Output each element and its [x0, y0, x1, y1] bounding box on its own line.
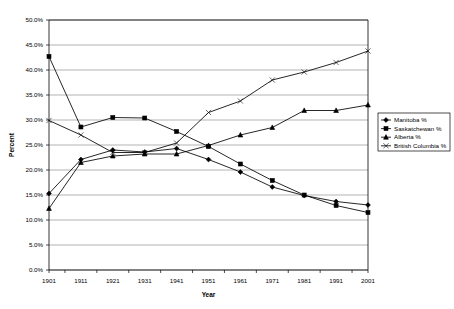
x-axis-title: Year — [202, 291, 216, 298]
x-tick-label: 1971 — [265, 277, 279, 284]
x-tick-label: 1931 — [138, 277, 152, 284]
series-marker-1 — [238, 162, 242, 166]
y-tick-label: 30.0% — [25, 116, 43, 123]
x-tick-label: 1911 — [74, 277, 88, 284]
y-tick-label: 45.0% — [25, 41, 43, 48]
y-axis-title: Percent — [8, 132, 15, 157]
x-tick-label: 1921 — [106, 277, 120, 284]
x-tick-label: 1901 — [42, 277, 56, 284]
series-marker-0 — [206, 157, 211, 162]
series-line-1 — [49, 57, 368, 213]
legend-label-3: British Columbia % — [394, 142, 447, 149]
legend-label-2: Alberta % — [394, 133, 421, 140]
series-marker-1 — [334, 204, 338, 208]
y-tick-label: 0.0% — [29, 266, 44, 273]
series-marker-0 — [270, 185, 275, 190]
x-tick-label: 1941 — [170, 277, 184, 284]
y-tick-label: 40.0% — [25, 66, 43, 73]
series-marker-2 — [366, 102, 371, 107]
series-marker-1 — [175, 130, 179, 134]
y-tick-label: 20.0% — [25, 166, 43, 173]
series-line-3 — [49, 51, 368, 153]
y-tick-label: 10.0% — [25, 216, 43, 223]
y-tick-label: 25.0% — [25, 141, 43, 148]
series-marker-1 — [302, 193, 306, 197]
legend-label-0: Manitoba % — [394, 116, 427, 123]
x-tick-label: 2001 — [361, 277, 375, 284]
series-marker-0 — [174, 146, 179, 151]
x-tick-label: 1951 — [202, 277, 216, 284]
series-marker-2 — [270, 125, 275, 130]
legend-label-1: Saskatchewan % — [394, 125, 442, 132]
x-tick-label: 1991 — [329, 277, 343, 284]
series-marker-0 — [366, 203, 371, 208]
series-marker-1 — [270, 179, 274, 183]
line-chart: 0.0%5.0%10.0%15.0%20.0%25.0%30.0%35.0%40… — [0, 0, 454, 309]
x-tick-label: 1981 — [297, 277, 311, 284]
series-marker-1 — [111, 116, 115, 120]
series-marker-0 — [334, 199, 339, 204]
chart-container: 0.0%5.0%10.0%15.0%20.0%25.0%30.0%35.0%40… — [0, 0, 454, 309]
x-tick-label: 1961 — [234, 277, 248, 284]
y-tick-label: 35.0% — [25, 91, 43, 98]
y-tick-label: 50.0% — [25, 16, 43, 23]
series-marker-1 — [79, 125, 83, 129]
legend-marker-1 — [384, 127, 388, 131]
series-marker-1 — [47, 55, 51, 59]
series-marker-1 — [143, 116, 147, 120]
y-tick-label: 5.0% — [29, 241, 44, 248]
series-marker-0 — [238, 170, 243, 175]
series-marker-1 — [366, 211, 370, 215]
y-tick-label: 15.0% — [25, 191, 43, 198]
